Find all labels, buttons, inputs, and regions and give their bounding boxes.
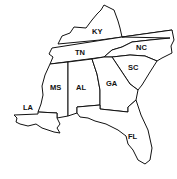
state-la[interactable] [14,112,60,133]
label-tn: TN [75,48,85,57]
label-al: AL [76,83,86,92]
label-sc: SC [128,63,139,72]
southeast-map: KY TN NC SC MS AL GA LA FL [0,0,177,179]
label-ky: KY [92,27,102,36]
label-nc: NC [136,43,147,52]
label-ms: MS [50,83,61,92]
label-ga: GA [106,79,118,88]
label-la: LA [23,103,34,112]
label-fl: FL [128,132,138,141]
